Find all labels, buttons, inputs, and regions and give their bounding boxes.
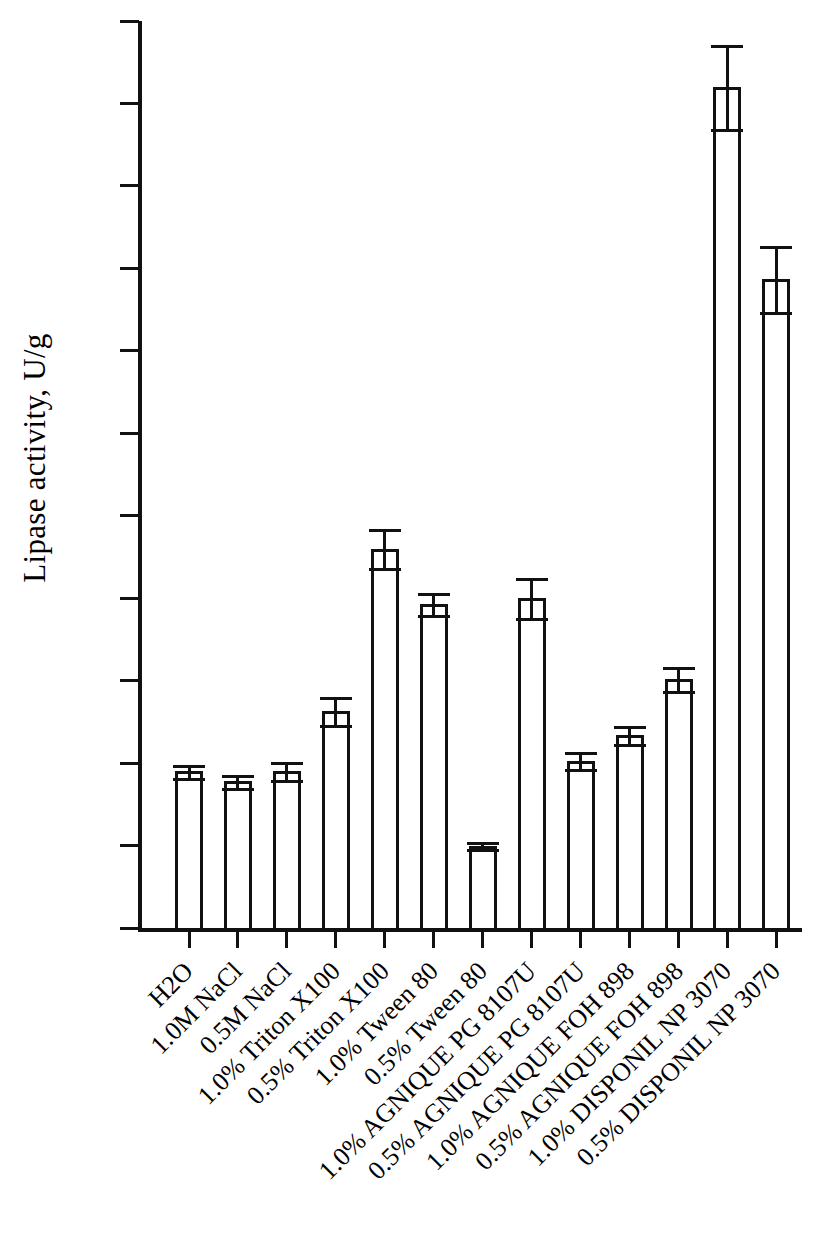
- error-bar-cap-lower: [467, 849, 499, 852]
- y-axis-line: [138, 21, 142, 928]
- error-bar-cap-upper: [614, 726, 646, 729]
- error-bar-cap-upper: [663, 667, 695, 670]
- x-tick-4: [383, 928, 386, 948]
- bar: [224, 781, 252, 928]
- y-tick-800: [120, 267, 139, 270]
- error-bar-cap-lower: [760, 312, 792, 315]
- error-bar-cap-lower: [516, 618, 548, 621]
- error-bar-stem: [383, 529, 386, 569]
- error-bar-cap-lower: [565, 769, 597, 772]
- y-tick-100: [120, 844, 139, 847]
- y-tick-600: [120, 432, 139, 435]
- error-bar-cap-upper: [271, 762, 303, 765]
- error-bar-cap-upper: [222, 775, 254, 778]
- y-tick-1100: [120, 20, 139, 23]
- error-bar-cap-upper: [711, 45, 743, 48]
- bar: [175, 771, 203, 928]
- lipase-activity-bar-chart: Lipase activity, U/g 0100200300400500600…: [0, 0, 814, 1237]
- bar: [469, 846, 497, 928]
- error-bar-cap-upper: [418, 593, 450, 596]
- x-tick-3: [334, 928, 337, 948]
- x-tick-0: [188, 928, 191, 948]
- error-bar-cap-lower: [711, 129, 743, 132]
- error-bar-stem: [726, 45, 729, 129]
- bar: [567, 761, 595, 928]
- x-tick-12: [775, 928, 778, 948]
- x-tick-1: [236, 928, 239, 948]
- x-tick-9: [628, 928, 631, 948]
- error-bar-cap-upper: [516, 578, 548, 581]
- bar: [762, 279, 790, 928]
- bar: [322, 711, 350, 928]
- error-bar-cap-upper: [369, 529, 401, 532]
- bar: [665, 679, 693, 928]
- error-bar-cap-lower: [663, 691, 695, 694]
- error-bar-cap-lower: [271, 780, 303, 783]
- bar: [518, 598, 546, 928]
- error-bar-stem: [677, 667, 680, 690]
- error-bar-stem: [334, 697, 337, 725]
- error-bar-cap-upper: [760, 246, 792, 249]
- bar: [273, 771, 301, 928]
- error-bar-stem: [432, 593, 435, 614]
- bar: [371, 549, 399, 928]
- error-bar-cap-lower: [369, 568, 401, 571]
- error-bar-cap-lower: [614, 744, 646, 747]
- x-tick-11: [726, 928, 729, 948]
- y-tick-0: [120, 927, 139, 930]
- x-tick-2: [285, 928, 288, 948]
- y-axis-title: Lipase activity, U/g: [17, 258, 53, 658]
- error-bar-cap-lower: [222, 788, 254, 791]
- error-bar-stem: [530, 578, 533, 618]
- x-tick-10: [677, 928, 680, 948]
- y-tick-700: [120, 349, 139, 352]
- error-bar-cap-upper: [173, 765, 205, 768]
- error-bar-cap-lower: [173, 778, 205, 781]
- y-tick-200: [120, 762, 139, 765]
- bar: [420, 604, 448, 928]
- y-tick-400: [120, 597, 139, 600]
- bar: [713, 87, 741, 928]
- error-bar-cap-lower: [320, 725, 352, 728]
- x-tick-6: [481, 928, 484, 948]
- error-bar-stem: [775, 246, 778, 312]
- x-tick-5: [432, 928, 435, 948]
- error-bar-cap-upper: [320, 697, 352, 700]
- error-bar-cap-lower: [418, 615, 450, 618]
- bar: [616, 735, 644, 928]
- error-bar-cap-upper: [467, 842, 499, 845]
- x-tick-8: [579, 928, 582, 948]
- x-tick-7: [530, 928, 533, 948]
- plot-area: [138, 21, 802, 928]
- y-tick-500: [120, 514, 139, 517]
- error-bar-cap-upper: [565, 752, 597, 755]
- y-tick-1000: [120, 102, 139, 105]
- y-tick-300: [120, 679, 139, 682]
- y-tick-900: [120, 184, 139, 187]
